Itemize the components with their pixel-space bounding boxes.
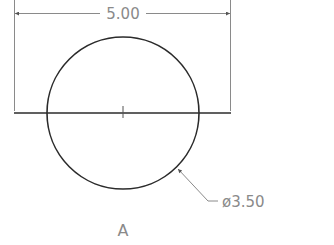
view-label: A <box>118 221 129 240</box>
width-dimension-text: 5.00 <box>106 5 139 23</box>
technical-drawing: 5.00 ø3.50 A <box>0 0 334 245</box>
diameter-dimension-text: ø3.50 <box>222 193 265 211</box>
diameter-leader-line <box>178 169 208 201</box>
